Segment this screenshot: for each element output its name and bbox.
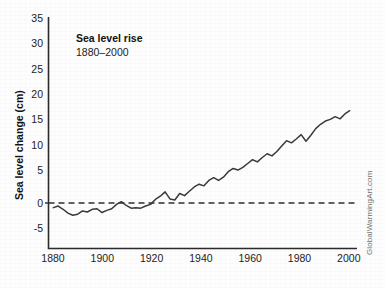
x-axis-tick-labels: 1880 1900 1920 1940 1960 1980 2000: [41, 252, 360, 264]
x-tick-label: 1980: [288, 252, 312, 264]
x-tick-label: 1940: [189, 252, 213, 264]
y-tick-label: 20: [31, 88, 43, 100]
x-tick-label: 1920: [140, 252, 164, 264]
chart-subtitle: 1880–2000: [76, 46, 129, 58]
watermark-label: GlobalWarmingArt.com: [365, 170, 374, 255]
y-tick-label: 0: [37, 197, 43, 209]
x-tick-label: 1960: [239, 252, 263, 264]
chart-title: Sea level rise: [76, 32, 143, 44]
y-tick-label: 10: [31, 139, 43, 151]
x-tick-label: 1900: [91, 252, 115, 264]
y-tick-label: -5: [34, 222, 43, 234]
y-tick-label: 15: [31, 113, 43, 125]
x-tick-label: 2000: [337, 252, 361, 264]
y-tick-label: 25: [31, 63, 43, 75]
y-axis-title: Sea level change (cm): [13, 90, 25, 200]
y-tick-label: 30: [31, 37, 43, 49]
x-tick-label: 1880: [41, 252, 65, 264]
y-tick-label: 35: [31, 12, 43, 24]
chart-figure: 35 30 25 20 15 10 5 0 -5 Sea level chang…: [0, 0, 385, 288]
y-tick-label: 5: [37, 164, 43, 176]
sea-level-rise-chart: 35 30 25 20 15 10 5 0 -5 Sea level chang…: [0, 0, 385, 288]
y-axis-tick-labels: 35 30 25 20 15 10 5 0 -5: [31, 12, 43, 234]
sea-level-data-line: [53, 111, 349, 216]
